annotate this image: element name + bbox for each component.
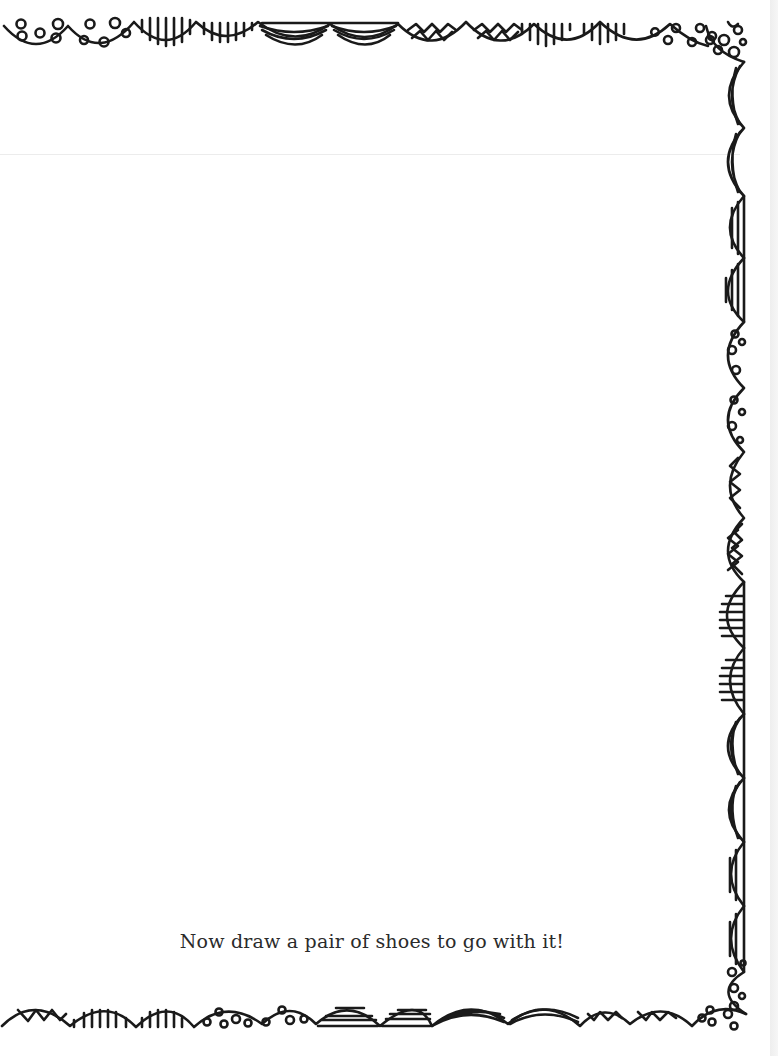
arcs-pattern-right (732, 66, 740, 192)
stripes-pattern-right (726, 196, 744, 322)
arcs-pattern-right-2 (731, 714, 744, 842)
stripes-pattern-bottom (318, 1008, 430, 1026)
vertical-lines-pattern-2 (522, 24, 624, 46)
zigzag-pattern-bottom-2 (588, 1012, 676, 1020)
decorative-scalloped-border (0, 0, 778, 1056)
top-border (4, 18, 746, 62)
bottom-border (2, 1007, 746, 1030)
corner-dots-pattern (706, 22, 746, 62)
dots-pattern-bottom (204, 1007, 308, 1028)
instruction-text: Now draw a pair of shoes to go with it! (0, 930, 744, 952)
right-border (720, 62, 746, 1014)
zigzag-pattern (408, 24, 522, 40)
